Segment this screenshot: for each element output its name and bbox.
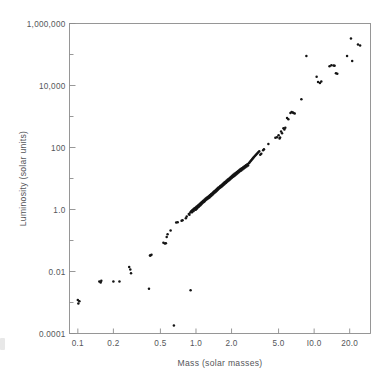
- data-point: [150, 253, 153, 256]
- y-axis: 1,000,00010,0001001.00.010.0001: [27, 20, 76, 339]
- x-tick-label-1: 0.2: [107, 339, 119, 348]
- data-point: [130, 272, 133, 275]
- y-tick-label-3: 1.0: [53, 206, 65, 215]
- data-point: [166, 233, 169, 236]
- x-axis-title: Mass (solar masses): [178, 358, 263, 368]
- data-point: [173, 324, 176, 327]
- chart-figure: 0.10.20.51.02.05.0I0.020.01,000,00010,00…: [0, 0, 392, 380]
- data-point: [118, 280, 121, 283]
- x-tick-label-5: 5.0: [272, 339, 284, 348]
- data-point: [305, 55, 308, 58]
- data-points: [77, 37, 362, 327]
- data-point: [276, 136, 279, 139]
- y-axis-title: Luminosity (solar units): [18, 131, 28, 227]
- data-point: [351, 60, 354, 63]
- x-tick-label-7: 20.0: [341, 339, 358, 348]
- data-point: [287, 118, 290, 121]
- data-point: [176, 221, 179, 224]
- scatter-plot: 0.10.20.51.02.05.0I0.020.01,000,00010,00…: [0, 0, 392, 380]
- data-point: [260, 152, 263, 155]
- data-point: [263, 148, 266, 151]
- data-point: [284, 127, 287, 130]
- x-tick-label-4: 2.0: [225, 339, 237, 348]
- data-point: [359, 44, 362, 47]
- data-point: [112, 280, 115, 283]
- data-point: [165, 242, 168, 245]
- data-point: [188, 213, 191, 216]
- x-tick-label-0: 0.1: [72, 339, 84, 348]
- page-edge-artifact: [0, 338, 5, 350]
- data-point: [320, 80, 323, 83]
- data-point: [333, 65, 336, 68]
- data-point: [315, 76, 318, 79]
- data-point: [258, 150, 261, 153]
- data-point: [77, 302, 80, 305]
- x-tick-label-2: 0.5: [154, 339, 166, 348]
- data-point: [148, 287, 151, 290]
- plot-frame: [70, 24, 371, 334]
- data-point: [350, 37, 353, 40]
- x-axis: 0.10.20.51.02.05.0I0.020.0: [72, 329, 359, 348]
- data-point: [293, 112, 296, 115]
- y-tick-label-2: 100: [51, 144, 66, 153]
- data-point: [185, 215, 188, 218]
- data-point: [267, 143, 270, 146]
- data-point: [99, 281, 102, 284]
- data-point: [128, 266, 131, 269]
- data-point: [129, 268, 132, 271]
- data-point: [181, 219, 184, 222]
- data-point: [78, 300, 81, 303]
- data-point: [357, 43, 360, 46]
- y-tick-label-0: 1,000,000: [27, 20, 66, 29]
- data-point: [336, 72, 339, 75]
- data-point: [330, 64, 333, 67]
- data-point: [346, 55, 349, 58]
- data-point: [169, 229, 172, 232]
- y-tick-label-4: 0.01: [49, 268, 66, 277]
- data-point: [165, 236, 168, 239]
- x-tick-label-3: 1.0: [190, 339, 202, 348]
- data-point: [277, 134, 280, 137]
- y-tick-label-5: 0.0001: [39, 330, 66, 339]
- data-point: [189, 289, 192, 292]
- data-point: [247, 164, 250, 167]
- data-point: [279, 136, 282, 139]
- x-tick-label-6: I0.0: [307, 339, 322, 348]
- y-tick-label-1: 10,000: [39, 82, 66, 91]
- data-point: [300, 98, 303, 101]
- data-point: [281, 132, 284, 135]
